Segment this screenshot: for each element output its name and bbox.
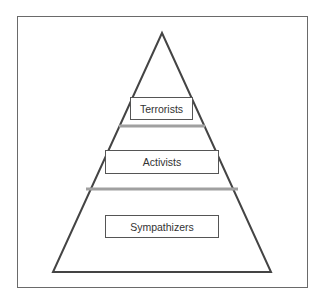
level-label: Terrorists xyxy=(140,103,183,115)
level-label: Sympathizers xyxy=(130,221,194,233)
level-label: Activists xyxy=(143,156,182,168)
level-sympathizers: Sympathizers xyxy=(105,215,219,238)
level-activists: Activists xyxy=(105,150,219,174)
level-terrorists: Terrorists xyxy=(130,97,193,120)
